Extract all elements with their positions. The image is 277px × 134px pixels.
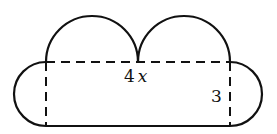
left-semicircle bbox=[14, 62, 46, 126]
right-semicircle bbox=[230, 62, 262, 126]
height-label: 3 bbox=[211, 86, 222, 106]
top-right-semicircle bbox=[138, 16, 230, 62]
top-left-semicircle bbox=[46, 16, 138, 62]
composite-figure: 4x 3 bbox=[0, 0, 277, 134]
width-label: 4x bbox=[124, 66, 148, 86]
